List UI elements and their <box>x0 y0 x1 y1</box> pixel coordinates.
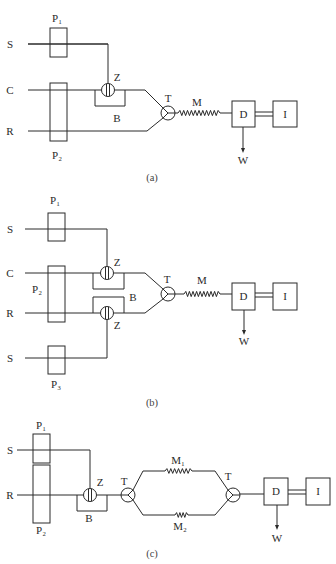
label-t: T <box>164 273 171 285</box>
sample-line-top <box>25 229 107 267</box>
label-p1: P₁ <box>50 194 60 206</box>
label-t: T <box>165 92 172 104</box>
label-i: I <box>283 290 287 302</box>
injection-valve-icon <box>84 489 97 502</box>
label-z: Z <box>114 71 121 83</box>
label-p1: P₁ <box>52 12 62 24</box>
injection-valve-bottom-icon <box>101 307 114 320</box>
label-p2: P₂ <box>52 149 62 161</box>
reagent-to-tee <box>114 299 164 313</box>
sample-line-bottom <box>25 320 107 359</box>
label-s-bottom: S <box>7 352 13 364</box>
label-r: R <box>6 307 14 319</box>
label-t-split: T <box>121 475 128 487</box>
label-m: M <box>197 274 207 286</box>
pump-p2 <box>50 83 67 141</box>
tee-split-icon <box>121 488 135 502</box>
pump-p1 <box>33 434 50 463</box>
label-d: D <box>240 290 248 302</box>
label-b: B <box>85 512 92 524</box>
tee-merge-icon <box>226 488 240 502</box>
diagram-c: S R P₁ P₂ Z B T T M₁ M₂ D I W (c) <box>6 419 330 560</box>
pump-p2 <box>48 266 65 322</box>
label-p2: P₂ <box>36 524 46 536</box>
label-p2: P₂ <box>32 283 42 295</box>
label-r: R <box>6 489 14 501</box>
label-p1: P₁ <box>36 419 46 431</box>
caption-a: (a) <box>146 172 158 184</box>
label-d: D <box>272 485 280 497</box>
arrow-down-icon <box>275 525 279 530</box>
diagram-b: S C R S P₁ P₂ P₃ Z Z B T M D I W (b) <box>6 194 297 409</box>
label-w: W <box>239 335 250 347</box>
label-b: B <box>113 112 120 124</box>
label-t-merge: T <box>225 470 232 482</box>
lower-branch <box>133 500 175 515</box>
label-d: D <box>240 108 248 120</box>
label-s: S <box>7 38 13 50</box>
mixing-coil-1-icon <box>165 469 192 474</box>
label-s: S <box>7 444 13 456</box>
upper-branch-2 <box>192 471 228 490</box>
label-r: R <box>6 125 14 137</box>
label-i: I <box>316 485 320 497</box>
mixing-coil-icon <box>178 110 220 115</box>
diagram-a: S C R P₁ P₂ Z B T M D I W (a) <box>6 12 297 184</box>
label-b: B <box>129 291 136 303</box>
label-p3: P₃ <box>51 378 61 390</box>
label-c: C <box>6 84 13 96</box>
pump-p3 <box>48 346 65 374</box>
label-w: W <box>238 154 249 166</box>
mixing-coil-2-icon <box>175 513 188 518</box>
tee-connector-icon <box>161 106 175 120</box>
flow-injection-schematics: S C R P₁ P₂ Z B T M D I W (a) <box>0 0 336 564</box>
label-m2: M₂ <box>173 520 187 532</box>
arrow-down-icon <box>241 148 245 153</box>
pump-p2 <box>33 465 50 523</box>
mixing-coil-icon <box>184 291 220 296</box>
label-z-bottom: Z <box>114 319 121 331</box>
pump-p1 <box>50 28 67 57</box>
reagent-line <box>28 118 163 131</box>
label-m1: M₁ <box>171 454 185 466</box>
label-s-top: S <box>7 223 13 235</box>
label-z: Z <box>97 476 104 488</box>
label-i: I <box>283 108 287 120</box>
tee-connector-icon <box>161 287 175 301</box>
injection-valve-icon <box>102 84 115 97</box>
label-w: W <box>272 532 283 544</box>
carrier-to-tee <box>114 273 164 289</box>
caption-b: (b) <box>146 397 159 409</box>
injection-valve-top-icon <box>101 267 114 280</box>
lower-branch-2 <box>188 500 228 515</box>
label-c: C <box>6 267 13 279</box>
label-z-top: Z <box>114 256 121 268</box>
upper-branch <box>133 471 165 490</box>
pump-p1 <box>48 213 65 241</box>
sample-line <box>17 450 90 489</box>
sample-line <box>28 44 108 84</box>
carrier-to-tee <box>115 90 164 108</box>
label-m: M <box>192 96 202 108</box>
caption-c: (c) <box>146 548 158 560</box>
